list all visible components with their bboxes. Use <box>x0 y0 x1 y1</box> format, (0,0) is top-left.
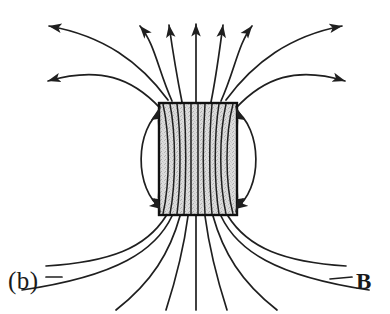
field-line-top-far-left <box>49 26 168 100</box>
field-line-top-right-outer <box>221 26 252 101</box>
magnetic-field-figure: (b) B <box>0 0 390 314</box>
field-line-top-left-inner <box>169 25 182 102</box>
field-line-mid-left <box>48 75 160 108</box>
field-line-bottom-left-1 <box>166 216 188 310</box>
field-symbol-label: B <box>356 270 371 293</box>
field-line-mid-right <box>236 75 345 108</box>
field-line-top-left-outer <box>140 26 172 101</box>
field-line-bottom-right-3 <box>221 216 369 290</box>
field-line-top-far-right <box>226 26 342 100</box>
field-line-bottom-far-left <box>46 216 166 266</box>
field-line-bottom-left-3 <box>22 216 172 290</box>
field-line-canvas <box>0 0 390 314</box>
field-line-bottom-far-right <box>228 216 346 266</box>
panel-label: (b) <box>8 268 39 293</box>
field-line-bottom-right-1 <box>205 216 227 310</box>
field-line-top-right-inner <box>211 25 223 102</box>
label-connector-right <box>330 277 352 279</box>
